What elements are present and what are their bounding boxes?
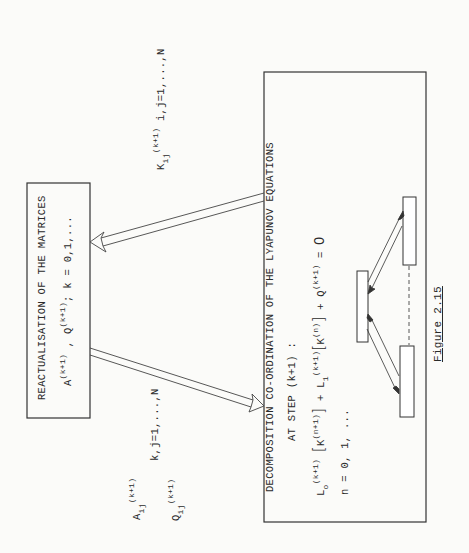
l1-sup: (k+1) — [311, 351, 320, 377]
hollow-arrow-to-reactualisation — [90, 193, 264, 252]
k2-symbol: K — [315, 338, 327, 345]
iteration-index: n = 0, 1, ... — [340, 409, 351, 495]
a-range-label: k,j=1,...,N — [150, 388, 161, 461]
bracket-open-1: [ — [310, 446, 328, 452]
figure-caption: Figure 2.15 — [433, 286, 444, 362]
reactualisation-title: REACTUALISATION OF THE MATRICES — [37, 195, 48, 400]
zero-matrix: 0 — [311, 237, 327, 245]
k1-sup: (n+1) — [311, 414, 320, 440]
bracket-close-1: ] — [310, 408, 328, 414]
bracket-close-2: ] — [310, 316, 328, 322]
equals-sign: = — [315, 245, 327, 265]
l1-symbol: L — [315, 381, 327, 388]
subsystem-rect-bottom — [400, 346, 414, 417]
formula-tail: ; k = 0,1,... — [62, 216, 74, 302]
q-matrix-label: Qij(k+1) — [171, 479, 182, 521]
symbol-q-sup: (k+1) — [58, 302, 67, 328]
reactualisation-formula: A(k+1) , Q(k+1); k = 0,1,... — [63, 216, 74, 386]
a-symbol: A — [131, 513, 143, 520]
k-sub: ij — [161, 153, 170, 163]
decomposition-title: DECOMPOSITION CO-ORDINATION OF THE LYAPU… — [265, 142, 276, 492]
symbol-a: A — [62, 379, 74, 386]
document-page: REACTUALISATION OF THE MATRICES A(k+1) ,… — [0, 0, 469, 553]
bracket-open-2: [ — [310, 345, 328, 351]
q-symbol-eq: Q — [315, 290, 327, 297]
decomposition-subtitle: AT STEP (k+1) : — [287, 342, 298, 441]
lyapunov-equation: Lo(k+1) [K(n+1)] + L1(k+1)[K(n)] + Q(k+1… — [312, 237, 327, 496]
l0-symbol: L — [315, 489, 327, 496]
l0-sub: o — [321, 484, 330, 489]
symbol-a-sup: (k+1) — [58, 354, 67, 380]
q-sup: (k+1) — [166, 479, 175, 505]
k-symbol: K — [155, 163, 167, 170]
exchange-arrows-bottom — [367, 314, 399, 394]
exchange-arrows-top — [368, 211, 404, 294]
q-sub: ij — [176, 504, 185, 514]
l0-sup: (k+1) — [311, 459, 320, 485]
k2-sup: (n) — [311, 323, 320, 338]
k-matrix-label: Kij(k+1) i,j=1,...,N — [156, 48, 167, 170]
k-range: i,j=1,...,N — [155, 48, 167, 121]
a-sub: ij — [137, 503, 146, 513]
q-symbol: Q — [170, 514, 182, 521]
q-sup-eq: (k+1) — [311, 265, 320, 291]
subsystem-rect-top — [403, 197, 416, 265]
l1-sub: 1 — [321, 376, 330, 381]
a-matrix-label: Aij(k+1) — [132, 478, 143, 520]
plus-2: + — [315, 297, 327, 317]
symbol-q: Q — [62, 327, 74, 334]
a-sup: (k+1) — [127, 478, 136, 504]
separator: , — [62, 334, 74, 354]
k1-symbol: K — [315, 439, 327, 446]
subsystem-rect-middle — [357, 271, 368, 342]
hollow-arrow-to-decomposition — [90, 348, 264, 412]
k-sup: (k+1) — [151, 128, 160, 154]
plus-1: + — [315, 388, 327, 408]
